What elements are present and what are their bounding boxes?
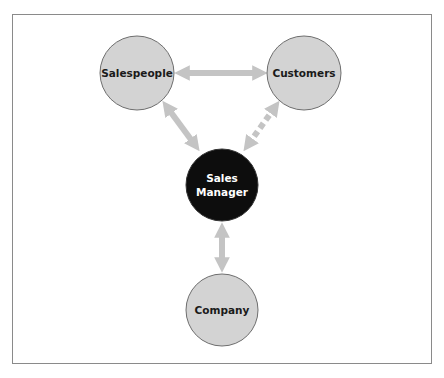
node-label-company: Company [195,304,250,316]
node-company: Company [186,274,258,346]
node-label-salespeople: Salespeople [101,67,173,79]
node-customers: Customers [267,36,341,110]
node-label-sales-manager-line1: Sales [206,172,238,184]
node-sales-manager: Sales Manager [186,149,258,221]
node-salespeople: Salespeople [100,36,174,110]
diagram-canvas: Salespeople Customers Sales Manager Comp… [0,0,444,378]
node-label-sales-manager-line2: Manager [196,186,249,198]
arrow-salespeople-sales-manager [167,107,195,145]
node-label-customers: Customers [272,67,335,79]
arrow-customers-sales-manager-dashed [248,107,275,145]
